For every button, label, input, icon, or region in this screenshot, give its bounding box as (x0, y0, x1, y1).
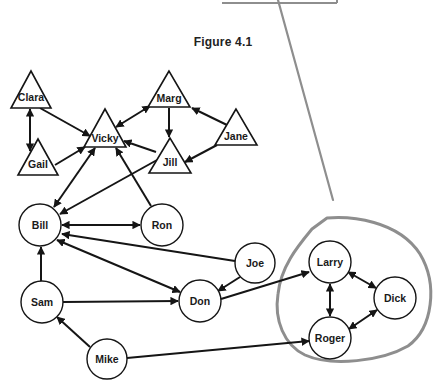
node-label: Jane (224, 130, 248, 142)
node-label: Roger (315, 332, 345, 344)
edge-joe-don (218, 277, 240, 291)
node-label: Ron (152, 219, 172, 231)
node-label: Dick (384, 292, 406, 304)
node-roger: Roger (309, 317, 351, 359)
edge-mike-sam (57, 317, 90, 347)
node-dick: Dick (374, 277, 416, 319)
edge-roger-dick (349, 310, 377, 329)
edge-don-bill (57, 240, 180, 292)
node-don: Don (179, 280, 221, 322)
node-label: Jill (163, 156, 178, 168)
node-label: Gail (28, 158, 48, 170)
edge-sam-don (63, 301, 178, 302)
node-gail: Gail (18, 139, 58, 175)
edge-jane-marg (192, 108, 227, 125)
annotation-pointer-line (278, 0, 333, 200)
node-label: Clara (18, 91, 44, 103)
node-label: Mike (95, 353, 119, 365)
node-joe: Joe (235, 243, 275, 283)
node-label: Joe (246, 257, 264, 269)
node-mike: Mike (87, 339, 127, 379)
node-label: Don (190, 295, 210, 307)
edge-jill-bill (60, 160, 157, 214)
node-marg: Marg (148, 71, 190, 107)
edge-marg-vicky (116, 106, 150, 127)
node-larry: Larry (309, 241, 351, 283)
node-label: Bill (32, 219, 48, 231)
sociogram-diagram: ClaraGailVickyMargJaneJillBillRonJoeSamD… (0, 0, 436, 386)
node-jill: Jill (149, 138, 191, 173)
node-clara: Clara (11, 71, 51, 108)
edge-clara-vicky (40, 108, 90, 136)
edge-gail-vicky (55, 147, 85, 165)
edge-larry-dick (348, 272, 376, 288)
node-label: Sam (31, 296, 53, 308)
edge-jane-jill (185, 145, 217, 162)
node-vicky: Vicky (84, 109, 126, 147)
edge-ron-vicky (116, 148, 151, 206)
node-label: Marg (156, 92, 181, 104)
node-label: Larry (317, 256, 343, 268)
edge-mike-roger (127, 341, 309, 358)
node-bill: Bill (19, 204, 61, 246)
node-jane: Jane (215, 109, 257, 145)
node-ron: Ron (141, 204, 183, 246)
node-sam: Sam (21, 281, 63, 323)
node-label: Vicky (91, 132, 118, 144)
edge-jill-vicky (124, 141, 156, 152)
